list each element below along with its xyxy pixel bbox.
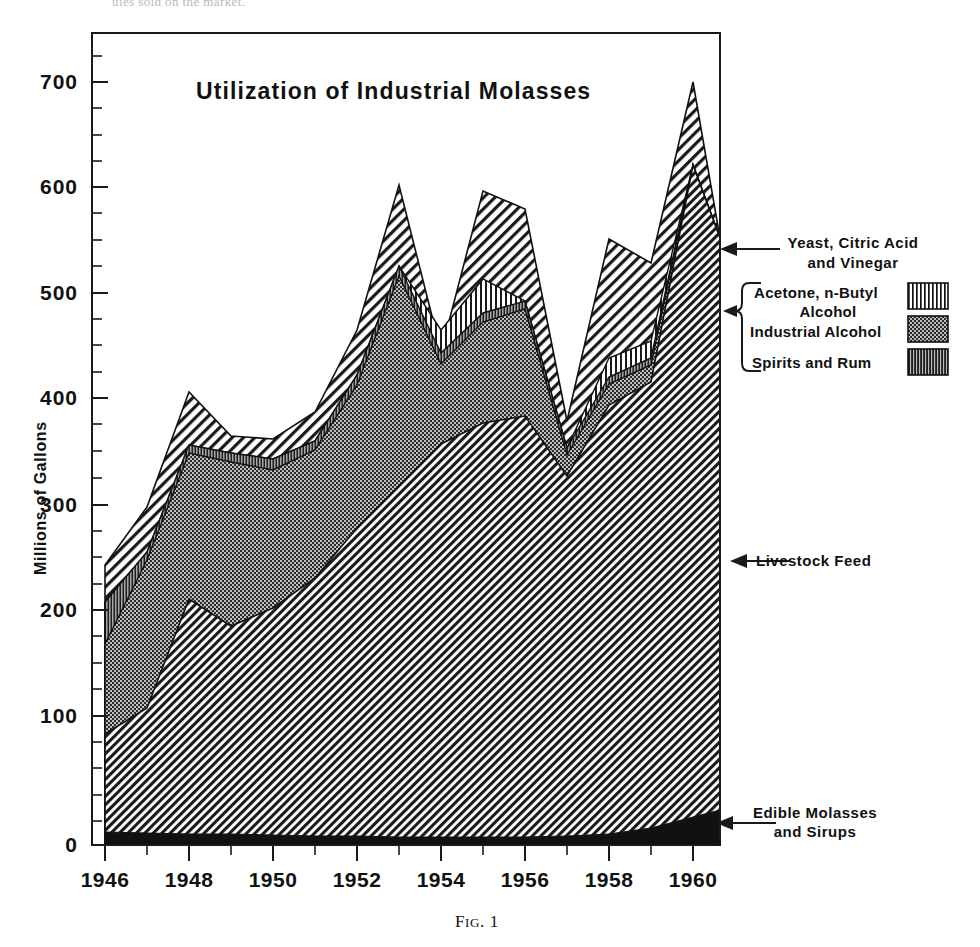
x-tick-label-1950: 1950 (231, 868, 315, 892)
x-tick-label-1948: 1948 (147, 868, 231, 892)
x-tick-label-1956: 1956 (483, 868, 567, 892)
legend-label-spirits-and-rum: Spirits and Rum (752, 353, 872, 372)
y-tick-label-200: 200 (10, 598, 78, 622)
y-tick-label-300: 300 (10, 493, 78, 517)
x-tick-label-1960: 1960 (651, 868, 735, 892)
x-tick-label-1958: 1958 (567, 868, 651, 892)
figure-root: ules sold on the market. (0, 0, 980, 947)
legend-brace-pointer (723, 305, 737, 317)
chart-title: Utilization of Industrial Molasses (196, 78, 591, 105)
legend-swatch-industrial-alcohol (908, 316, 948, 342)
figure-caption-smallcaps: IG (465, 915, 480, 930)
legend-label-industrial-alcohol: Industrial Alcohol (750, 322, 882, 341)
y-tick-label-500: 500 (10, 281, 78, 305)
figure-caption-prefix: F (455, 912, 465, 931)
legend-swatch-spirits-and-rum (908, 349, 948, 375)
y-tick-label-100: 100 (10, 704, 78, 728)
x-tick-label-1946: 1946 (63, 868, 147, 892)
annotation-edible-line2: and Sirups (700, 822, 930, 841)
annotation-livestock-feed: Livestock Feed (756, 551, 871, 570)
y-tick-label-400: 400 (10, 386, 78, 410)
x-tick-label-1952: 1952 (315, 868, 399, 892)
legend-label-acetone-line1: Acetone, n-Butyl (754, 283, 878, 302)
annotation-edible-line1: Edible Molasses (700, 803, 930, 822)
legend-label-acetone-line2: Alcohol (754, 302, 902, 321)
figure-caption: FIG. 1 (455, 912, 499, 932)
annotation-yeast-line2: and Vinegar (748, 253, 958, 272)
annotation-yeast-line1: Yeast, Citric Acid (748, 233, 958, 252)
x-axis-minor-ticks (147, 845, 651, 855)
legend-swatches (908, 283, 948, 375)
figure-caption-suffix: . 1 (480, 912, 499, 931)
y-tick-label-700: 700 (10, 70, 78, 94)
y-tick-label-600: 600 (10, 175, 78, 199)
legend-swatch-acetone-n-butyl-alcohol (908, 283, 948, 309)
y-tick-label-0: 0 (10, 833, 78, 857)
x-tick-label-1954: 1954 (399, 868, 483, 892)
